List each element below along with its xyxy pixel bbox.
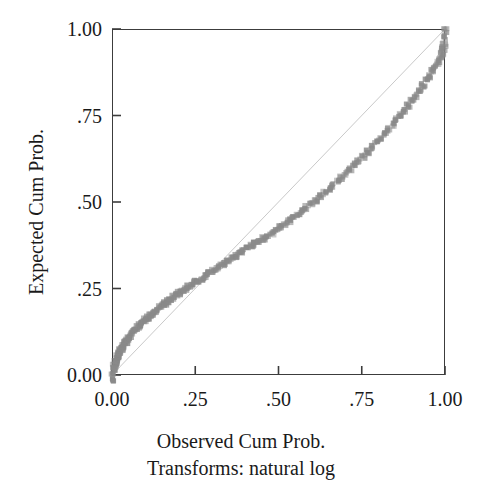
data-point-markers [109,26,450,383]
x-axis-transform-note: Transforms: natural log [0,455,482,482]
y-tick-label: .25 [34,279,102,299]
x-axis-title: Observed Cum Prob. [0,428,482,455]
x-tick-label: 1.00 [428,389,463,409]
pp-plot-figure: Expected Cum Prob. 0.00.25.50.751.00 0.0… [0,0,482,497]
y-tick-label: .75 [34,106,102,126]
x-tick-label: .50 [266,389,291,409]
reference-diagonal-line [112,29,445,375]
x-tick-label: .75 [349,389,374,409]
x-tick-label: 0.00 [95,389,130,409]
y-tick-label: 1.00 [34,19,102,39]
x-axis-title-block: Observed Cum Prob. Transforms: natural l… [0,428,482,482]
y-tick-label: 0.00 [34,365,102,385]
x-tick-label: .25 [183,389,208,409]
plot-area [112,29,445,375]
plot-svg [112,29,445,375]
y-tick-label: .50 [34,192,102,212]
